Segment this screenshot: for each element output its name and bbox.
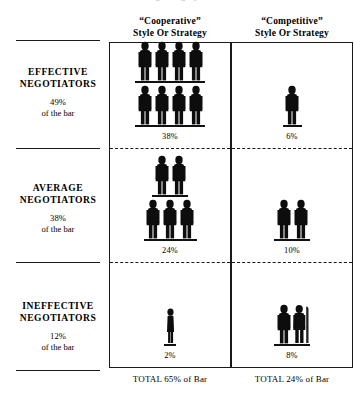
row-label-ineffective-line2: NEGOTIATORS [2,312,114,324]
row-label-effective-line2: NEGOTIATORS [2,78,114,90]
row-divider-effective-average [16,148,100,149]
row-label-average: AVERAGE NEGOTIATORS 38% of the bar [2,182,114,235]
person-icon [154,85,170,125]
row-label-ineffective-sub: of the bar [2,342,114,353]
person-icon [276,304,292,344]
cell-percent-cooperative-effective: 38% [162,132,178,142]
row-label-effective-percent: 49% [2,97,114,108]
figure-row [135,85,205,127]
column-header-competitive: “Competitive” Style Or Strategy [226,16,354,39]
row-label-effective: EFFECTIVE NEGOTIATORS 49% of the bar [2,66,114,119]
row-divider-average-ineffective [16,262,100,263]
figure-row [164,308,176,346]
figure-row [283,85,302,127]
cell-percent-cooperative-average: 24% [162,246,178,256]
figure-row [274,304,310,346]
person-icon [154,155,170,195]
figure-row [144,199,197,241]
row-divider-top [16,40,100,41]
person-icon [145,199,161,239]
cell-percent-competitive-average: 10% [284,246,300,256]
cell-cooperative-ineffective: 2% [110,262,230,367]
column-header-cooperative: “Cooperative” Style Or Strategy [104,16,236,39]
person-icon [284,85,300,125]
total-competitive: TOTAL 24% of Bar [226,374,354,384]
figure-row [274,199,310,241]
cell-competitive-ineffective: 8% [232,262,352,367]
column-box-cooperative: 38% 24% 2% [109,42,231,368]
row-label-average-percent: 38% [2,213,114,224]
row-label-effective-sub: of the bar [2,108,114,119]
cell-percent-cooperative-ineffective: 2% [164,351,176,361]
person-icon [171,41,187,81]
person-icon [179,199,195,239]
row-label-effective-line1: EFFECTIVE [2,66,114,78]
row-label-ineffective-line1: INEFFECTIVE [2,300,114,312]
person-icon [293,199,309,239]
person-icon [171,155,187,195]
person-icon [171,85,187,125]
figure-row [152,155,188,197]
cell-competitive-effective: 6% [232,43,352,148]
cell-cooperative-effective: 38% [110,43,230,148]
person-icon [188,85,204,125]
person-icon [137,85,153,125]
cell-percent-competitive-ineffective: 8% [286,351,298,361]
column-header-cooperative-title: “Cooperative” [139,16,201,26]
row-divider-bottom [16,370,100,371]
figure-row [135,41,205,83]
row-label-ineffective-percent: 12% [2,331,114,342]
cell-competitive-average: 10% [232,148,352,262]
row-label-average-sub: of the bar [2,224,114,235]
person-icon [293,304,309,344]
row-label-average-line2: NEGOTIATORS [2,194,114,206]
person-icon [188,41,204,81]
total-cooperative: TOTAL 65% of Bar [104,374,236,384]
column-box-competitive: 6% 10% 8% [231,42,353,368]
chart-caption: Negotiating Styles [0,0,354,1]
row-label-ineffective: INEFFECTIVE NEGOTIATORS 12% of the bar [2,300,114,353]
column-header-cooperative-subtitle: Style Or Strategy [104,28,236,40]
column-header-competitive-subtitle: Style Or Strategy [226,28,354,40]
person-icon [166,308,175,344]
person-icon [137,41,153,81]
cell-cooperative-average: 24% [110,148,230,262]
cell-percent-competitive-effective: 6% [286,132,298,142]
person-icon [154,41,170,81]
person-icon [276,199,292,239]
column-header-competitive-title: “Competitive” [261,16,323,26]
row-label-average-line1: AVERAGE [2,182,114,194]
person-icon [162,199,178,239]
